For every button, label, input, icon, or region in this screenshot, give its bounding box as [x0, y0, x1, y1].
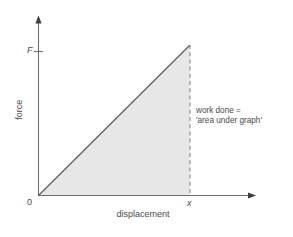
- origin-label: 0: [27, 197, 32, 208]
- work-done-annotation: work done = 'area under graph': [196, 106, 262, 127]
- x-axis-tick-label-x: x: [187, 198, 192, 209]
- work-done-annotation-line2: 'area under graph': [196, 116, 262, 126]
- force-displacement-figure: F 0 x force displacement work done = 'ar…: [0, 0, 293, 237]
- work-done-annotation-line1: work done =: [196, 106, 262, 116]
- x-axis-title: displacement: [98, 209, 188, 220]
- y-axis-title: force: [14, 85, 25, 135]
- y-axis-arrowhead: [35, 16, 41, 24]
- y-axis-tick-label-F: F: [27, 45, 33, 56]
- x-axis-arrowhead: [248, 192, 256, 198]
